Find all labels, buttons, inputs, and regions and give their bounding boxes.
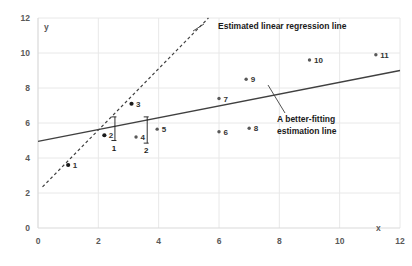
y-tick-label: 4	[25, 153, 30, 163]
y-tick-label: 6	[25, 118, 30, 128]
data-point	[155, 127, 158, 130]
data-point-label: 5	[162, 125, 167, 134]
data-point	[129, 102, 133, 106]
x-tick-label: 0	[36, 236, 41, 246]
y-tick-label: 10	[21, 48, 31, 58]
y-tick-label: 0	[25, 223, 30, 233]
x-axis-title: x	[376, 223, 381, 233]
data-point-label: 11	[380, 51, 389, 60]
x-tick-label: 12	[395, 236, 405, 246]
data-point-label: 7	[224, 95, 229, 104]
data-point	[217, 97, 220, 100]
x-tick-label: 10	[335, 236, 345, 246]
y-axis-title: y	[44, 22, 49, 32]
scatter-chart: 024681012 024681012 12 1234567891011 y x…	[0, 0, 412, 266]
data-point-label: 6	[224, 128, 229, 137]
chart-background	[0, 0, 412, 266]
data-point-label: 10	[314, 56, 323, 65]
x-tick-label: 8	[277, 236, 282, 246]
data-point	[244, 78, 247, 81]
data-point-label: 2	[109, 131, 114, 140]
x-tick-label: 6	[217, 236, 222, 246]
estimated-regression-line-label: Estimated linear regression line	[218, 21, 347, 31]
data-point	[66, 163, 70, 167]
y-tick-label: 12	[21, 13, 31, 23]
data-point-label: 9	[251, 75, 256, 84]
x-tick-label: 2	[96, 236, 101, 246]
data-point	[374, 53, 377, 56]
residual-label: 1	[112, 144, 117, 153]
data-point-label: 4	[141, 133, 146, 142]
data-point	[217, 130, 220, 133]
chart-root: 024681012 024681012 12 1234567891011 y x…	[0, 0, 412, 266]
better-fitting-line-label-line2: estimation line	[277, 126, 337, 136]
residual-label: 2	[144, 146, 149, 155]
y-tick-label: 2	[25, 188, 30, 198]
data-point	[134, 135, 137, 138]
data-point-label: 8	[254, 124, 259, 133]
x-tick-label: 4	[156, 236, 161, 246]
data-point	[308, 58, 311, 61]
data-point	[102, 133, 106, 137]
data-point	[247, 127, 250, 130]
data-point-label: 3	[136, 100, 141, 109]
data-point-label: 1	[73, 161, 78, 170]
better-fitting-line-label-line1: A better-fitting	[277, 114, 335, 124]
y-tick-label: 8	[25, 83, 30, 93]
